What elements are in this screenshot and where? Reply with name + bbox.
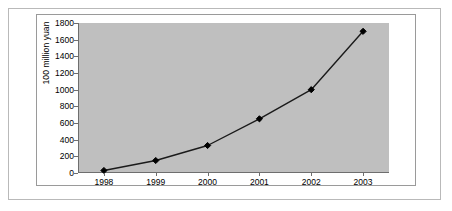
y-axis-tick-labels: 020040060080010001200140016001800 bbox=[40, 23, 74, 173]
x-axis-tick-label: 2002 bbox=[287, 177, 335, 187]
x-axis-tick-mark bbox=[311, 173, 312, 176]
x-axis-tick-mark bbox=[208, 173, 209, 176]
y-axis-tick-mark bbox=[74, 156, 78, 157]
x-axis-tick-label: 2001 bbox=[235, 177, 283, 187]
y-axis-tick-label: 800 bbox=[44, 102, 74, 111]
y-axis-tick-label: 1000 bbox=[44, 85, 74, 94]
y-axis-tick-label: 1800 bbox=[44, 19, 74, 28]
y-axis-tick-label: 1200 bbox=[44, 69, 74, 78]
plot-area bbox=[78, 23, 389, 173]
y-axis-tick-mark bbox=[74, 140, 78, 141]
y-axis-tick-label: 400 bbox=[44, 135, 74, 144]
y-axis-tick-mark bbox=[74, 40, 78, 41]
x-axis-tick-label: 2003 bbox=[339, 177, 387, 187]
y-axis-tick-mark bbox=[74, 173, 78, 174]
y-axis-tick-mark bbox=[74, 106, 78, 107]
x-axis-tick-mark bbox=[104, 173, 105, 176]
y-axis-tick-label: 200 bbox=[44, 152, 74, 161]
y-axis-tick-label: 0 bbox=[44, 169, 74, 178]
y-axis-tick-mark bbox=[74, 90, 78, 91]
y-axis-tick-mark bbox=[74, 123, 78, 124]
x-axis-tick-mark bbox=[156, 173, 157, 176]
y-axis-tick-mark bbox=[74, 56, 78, 57]
x-axis-tick-label: 2000 bbox=[184, 177, 232, 187]
x-axis-tick-label: 1999 bbox=[132, 177, 180, 187]
x-axis-tick-mark bbox=[259, 173, 260, 176]
y-axis-tick-label: 600 bbox=[44, 119, 74, 128]
x-axis-tick-label: 1998 bbox=[80, 177, 128, 187]
y-axis-tick-mark bbox=[74, 23, 78, 24]
x-axis-tick-labels: 199819992000200120022003 bbox=[78, 177, 389, 191]
x-axis-tick-mark bbox=[363, 173, 364, 176]
chart-figure: 100 million yuan 02004006008001000120014… bbox=[0, 0, 452, 211]
y-axis-tick-label: 1400 bbox=[44, 52, 74, 61]
y-axis-tick-label: 1600 bbox=[44, 35, 74, 44]
y-axis-tick-mark bbox=[74, 73, 78, 74]
